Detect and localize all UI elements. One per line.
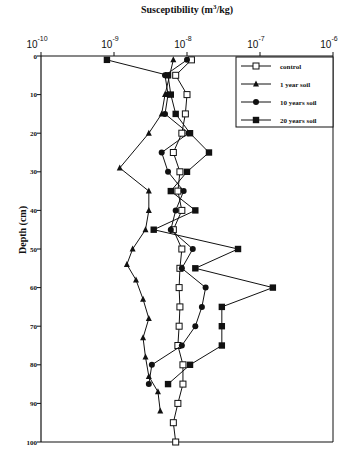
y-tick-label: 70: [30, 323, 38, 331]
x-axis-label: Susceptibility (m3/kg): [141, 3, 233, 16]
x-tick-label: 10-8: [174, 35, 191, 50]
y-tick-label: 10: [30, 91, 38, 99]
y-tick-label: 80: [30, 361, 38, 369]
x-tick-label: 10-7: [247, 35, 264, 50]
y-tick-label: 90: [30, 400, 38, 408]
y-tick-label: 60: [30, 284, 38, 292]
chart-canvas: Susceptibility (m3/kg) 10-1010-910-810-7…: [0, 0, 351, 470]
y-axis-title: Depth (cm): [17, 206, 29, 254]
legend-label: 10 years soil: [280, 99, 317, 107]
legend: control1 year soil10 years soil20 years …: [236, 57, 333, 127]
legend-label: 20 years soil: [280, 117, 317, 125]
x-tick-label: 10-9: [101, 35, 118, 50]
x-axis: 10-1010-910-810-710-6: [26, 35, 337, 56]
y-tick-label: 0: [34, 53, 38, 61]
x-tick-label: 10-10: [26, 35, 47, 50]
y-tick-label: 100: [27, 439, 38, 447]
x-tick-label: 10-6: [320, 35, 337, 50]
y-tick-label: 40: [30, 207, 38, 215]
x-axis-title: Susceptibility (m3/kg): [141, 3, 233, 16]
series-1-year-soil: [117, 56, 177, 413]
y-axis-label: Depth (cm): [17, 206, 29, 254]
legend-label: 1 year soil: [280, 81, 310, 89]
legend-label: control: [280, 63, 301, 71]
y-tick-label: 50: [30, 246, 38, 254]
y-tick-label: 20: [30, 130, 38, 138]
y-tick-label: 30: [30, 168, 38, 176]
